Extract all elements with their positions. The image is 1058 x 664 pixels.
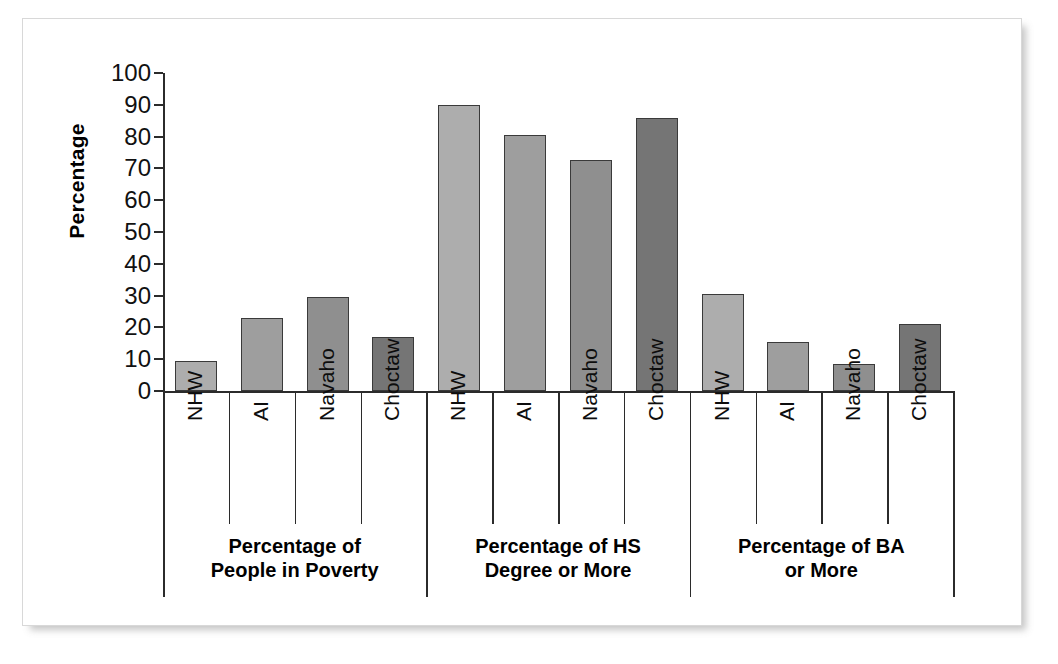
y-axis-tick-labels: 1009080706050403020100 <box>99 19 151 627</box>
y-axis-tick-label: 40 <box>99 252 151 276</box>
category-divider <box>821 391 823 524</box>
y-axis-tick-label: 0 <box>99 379 151 403</box>
grouped-bar-chart: Percentage 1009080706050403020100 NHWAIN… <box>23 19 1023 627</box>
category-label: NHW <box>710 371 734 421</box>
category-divider <box>361 391 363 524</box>
y-axis-tick-mark <box>154 199 163 201</box>
category-divider <box>492 391 494 524</box>
bar <box>241 318 283 391</box>
category-label: NHW <box>183 371 207 421</box>
group-label: Percentage of HSDegree or More <box>426 534 689 583</box>
y-axis-tick-mark <box>154 326 163 328</box>
group-label: Percentage ofPeople in Poverty <box>163 534 426 583</box>
category-label: AI <box>775 401 799 421</box>
category-label: Choctaw <box>907 339 931 421</box>
y-axis-tick-mark <box>154 72 163 74</box>
y-axis-tick-label: 100 <box>99 61 151 85</box>
figure-panel: Percentage 1009080706050403020100 NHWAIN… <box>22 18 1022 626</box>
bar <box>438 105 480 391</box>
category-divider <box>558 391 560 524</box>
category-divider <box>229 391 231 524</box>
y-axis-line <box>163 73 165 391</box>
group-label-line: Percentage of <box>163 534 426 558</box>
y-axis-tick-mark <box>154 104 163 106</box>
y-axis-tick-label: 70 <box>99 156 151 180</box>
category-divider <box>887 391 889 524</box>
category-label: Navaho <box>315 348 339 421</box>
bar <box>767 342 809 391</box>
y-axis-tick-mark <box>154 167 163 169</box>
category-label: NHW <box>446 371 470 421</box>
group-label-line: People in Poverty <box>163 558 426 582</box>
category-divider <box>624 391 626 524</box>
bar <box>504 135 546 391</box>
category-divider <box>756 391 758 524</box>
y-axis-tick-mark <box>154 263 163 265</box>
group-label-line: Degree or More <box>426 558 689 582</box>
y-axis-tick-label: 20 <box>99 315 151 339</box>
y-axis-title: Percentage <box>65 91 89 271</box>
y-axis-tick-mark <box>154 390 163 392</box>
group-label-line: Percentage of BA <box>690 534 953 558</box>
category-divider <box>295 391 297 524</box>
category-label: Navaho <box>578 348 602 421</box>
y-axis-tick-label: 80 <box>99 125 151 149</box>
group-label-line: or More <box>690 558 953 582</box>
group-divider <box>953 391 955 597</box>
y-axis-tick-mark <box>154 295 163 297</box>
y-axis-tick-mark <box>154 231 163 233</box>
category-label: Choctaw <box>644 339 668 421</box>
category-label: Choctaw <box>380 339 404 421</box>
y-axis-tick-mark <box>154 358 163 360</box>
group-label: Percentage of BAor More <box>690 534 953 583</box>
y-axis-tick-label: 30 <box>99 284 151 308</box>
y-axis-tick-label: 50 <box>99 220 151 244</box>
y-axis-tick-mark <box>154 136 163 138</box>
y-axis-tick-label: 60 <box>99 188 151 212</box>
y-axis-tick-label: 10 <box>99 347 151 371</box>
category-label: AI <box>512 401 536 421</box>
plot-area <box>163 73 953 391</box>
category-label: Navaho <box>841 348 865 421</box>
category-label: AI <box>249 401 273 421</box>
group-label-line: Percentage of HS <box>426 534 689 558</box>
y-axis-tick-label: 90 <box>99 93 151 117</box>
figure-page: Percentage 1009080706050403020100 NHWAIN… <box>0 0 1058 664</box>
